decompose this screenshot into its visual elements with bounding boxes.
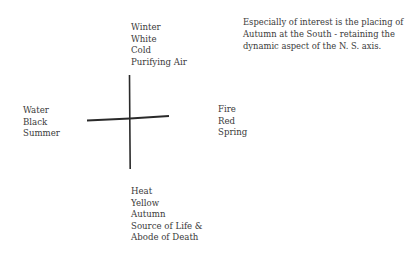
south-line: Source of Life & bbox=[131, 221, 203, 233]
north-label: Winter White Cold Purifying Air bbox=[131, 22, 187, 68]
west-label: Water Black Summer bbox=[23, 105, 60, 140]
east-label: Fire Red Spring bbox=[218, 104, 247, 139]
north-line: Cold bbox=[131, 45, 187, 57]
south-label: Heat Yellow Autumn Source of Life & Abod… bbox=[131, 186, 203, 244]
south-line: Autumn bbox=[131, 209, 203, 221]
south-line: Heat bbox=[131, 186, 203, 198]
west-line: Black bbox=[23, 117, 60, 129]
note-line: dynamic aspect of the N. S. axis. bbox=[243, 41, 406, 53]
east-line: Spring bbox=[218, 127, 247, 139]
west-line: Summer bbox=[23, 128, 60, 140]
note-line: Especially of interest is the placing of bbox=[243, 17, 406, 29]
north-line: Winter bbox=[131, 22, 187, 34]
east-line: Red bbox=[218, 116, 247, 128]
south-line: Yellow bbox=[131, 198, 203, 210]
south-line: Abode of Death bbox=[131, 232, 203, 244]
note-line: Autumn at the South - retaining the bbox=[243, 29, 406, 41]
north-line: Purifying Air bbox=[131, 57, 187, 69]
north-line: White bbox=[131, 34, 187, 46]
annotation-note: Especially of interest is the placing of… bbox=[243, 17, 406, 52]
west-line: Water bbox=[23, 105, 60, 117]
east-line: Fire bbox=[218, 104, 247, 116]
